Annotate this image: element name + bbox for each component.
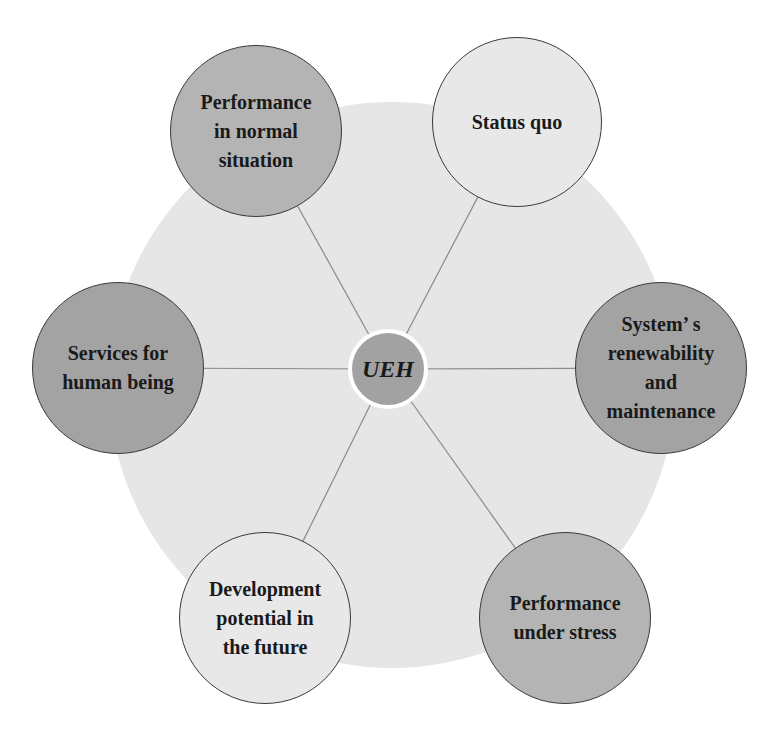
node-label: Performance in normal situation: [192, 88, 319, 175]
node-label: System’ s renewability and maintenance: [599, 310, 724, 426]
hub-ueh: UEH: [348, 329, 428, 409]
node-label: Development potential in the future: [201, 575, 329, 662]
node-system-renewability: System’ s renewability and maintenance: [575, 282, 747, 454]
node-development-potential: Development potential in the future: [179, 532, 351, 704]
node-services-human: Services for human being: [32, 282, 204, 454]
hub-label: UEH: [362, 356, 414, 383]
node-performance-stress: Performance under stress: [479, 532, 651, 704]
node-label: Services for human being: [54, 339, 182, 397]
node-performance-normal: Performance in normal situation: [170, 45, 342, 217]
ueh-diagram: Performance in normal situation Status q…: [0, 0, 771, 734]
node-label: Status quo: [464, 108, 571, 137]
node-label: Performance under stress: [501, 589, 628, 647]
node-status-quo: Status quo: [432, 37, 602, 207]
